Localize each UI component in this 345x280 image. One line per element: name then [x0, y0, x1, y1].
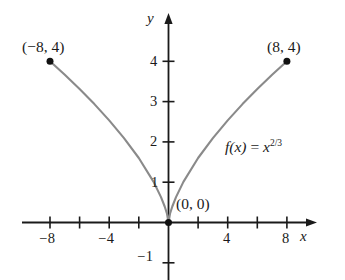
x-tick-label-4: 4 [223, 231, 230, 246]
function-exponent: 2/3 [270, 138, 282, 148]
y-tick-label-neg1: −1 [137, 249, 153, 264]
function-graph-figure: y x 4 3 2 1 −1 −8 −4 4 8 (−8, 4) (8, 4) … [0, 0, 345, 280]
point-label-neg8-4: (−8, 4) [22, 39, 64, 55]
function-name: f(x) [225, 138, 247, 155]
point-label-8-4: (8, 4) [267, 39, 301, 55]
x-tick-label-8: 8 [282, 231, 289, 246]
function-equation-label: f(x) = x2/3 [225, 139, 282, 155]
point-origin [165, 219, 172, 226]
x-axis-label: x [300, 229, 307, 244]
point-8-4 [283, 58, 290, 65]
y-tick-label-2: 2 [150, 134, 157, 149]
x-tick-label-neg4: −4 [98, 231, 114, 246]
function-base: x [263, 138, 270, 155]
y-tick-label-3: 3 [150, 94, 157, 109]
point-neg8-4 [47, 58, 54, 65]
x-tick-label-neg8: −8 [39, 231, 55, 246]
point-label-origin: (0, 0) [176, 196, 210, 212]
equals-sign: = [247, 138, 264, 155]
y-axis [164, 13, 172, 280]
y-tick-label-1: 1 [151, 175, 158, 190]
y-axis-label: y [147, 11, 154, 26]
y-tick-label-4: 4 [150, 54, 157, 69]
